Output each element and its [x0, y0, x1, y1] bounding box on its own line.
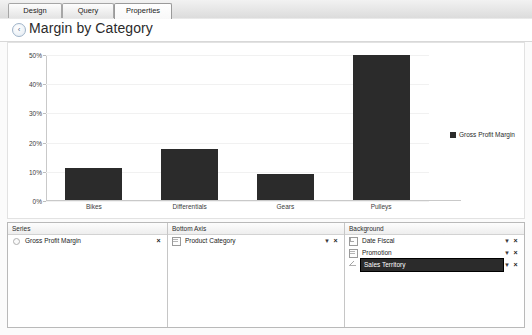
field-row-label: Gross Profit Margin: [24, 235, 154, 247]
panel-background-rows: Date Fiscal▼×Promotion▼×Sales Territory▼…: [345, 235, 524, 271]
field-row-label: Date Fiscal: [361, 235, 503, 247]
chevron-down-icon[interactable]: ▼: [323, 235, 331, 247]
y-tick-mark: [43, 201, 46, 202]
chart-header: ‹ Margin by Category: [0, 19, 532, 42]
panel-background-header: Background: [345, 223, 524, 235]
back-arrow-icon[interactable]: ‹: [12, 23, 26, 37]
measure-icon: [12, 237, 20, 245]
chevron-down-icon[interactable]: ▼: [503, 259, 511, 271]
bar[interactable]: [257, 174, 314, 200]
panel-bottom-axis-header: Bottom Axis: [168, 223, 344, 235]
tab-strip: Design Query Properties: [0, 0, 532, 20]
bar[interactable]: [353, 55, 410, 200]
remove-field-icon[interactable]: ×: [511, 247, 520, 259]
bar[interactable]: [65, 168, 122, 200]
tab-design[interactable]: Design: [8, 3, 62, 18]
field-row-label: Sales Territory: [361, 259, 503, 271]
remove-field-icon[interactable]: ×: [154, 235, 163, 247]
bar-cell: [142, 55, 238, 200]
x-axis-label: Bikes: [46, 203, 142, 210]
bar[interactable]: [161, 149, 218, 200]
plot-area: 50%40%30%20%10%0%: [46, 55, 429, 201]
bar-group: [46, 55, 429, 200]
bar-cell: [333, 55, 429, 200]
field-row[interactable]: Promotion▼×: [345, 247, 524, 259]
field-row[interactable]: Date Fiscal▼×: [345, 235, 524, 247]
chevron-down-icon[interactable]: ▼: [503, 247, 511, 259]
field-row-label: Product Category: [184, 235, 323, 247]
tab-properties[interactable]: Properties: [114, 3, 172, 19]
remove-field-icon[interactable]: ×: [511, 235, 520, 247]
y-tick-label: 10%: [29, 169, 42, 176]
field-row[interactable]: Sales Territory▼×: [345, 259, 524, 271]
table-icon: [349, 249, 357, 257]
panel-background: Background Date Fiscal▼×Promotion▼×Sales…: [345, 223, 524, 327]
panel-series: Series Gross Profit Margin×: [8, 223, 168, 327]
field-row[interactable]: Gross Profit Margin×: [8, 235, 167, 247]
y-tick-label: 40%: [29, 81, 42, 88]
y-tick-label: 30%: [29, 110, 42, 117]
panel-series-header: Series: [8, 223, 167, 235]
chart-canvas: 50%40%30%20%10%0% BikesDifferentialsGear…: [7, 42, 525, 219]
legend-swatch-icon: [450, 132, 456, 138]
bar-cell: [238, 55, 334, 200]
field-panels: Series Gross Profit Margin× Bottom Axis …: [7, 222, 525, 328]
gridline: [46, 201, 429, 202]
tab-query[interactable]: Query: [62, 3, 114, 18]
table-icon: [172, 237, 180, 245]
y-tick-label: 50%: [29, 52, 42, 59]
chart-legend: Gross Profit Margin: [450, 131, 515, 138]
x-axis-label: Differentials: [142, 203, 238, 210]
hierarchy-icon: [349, 237, 357, 245]
x-axis-labels: BikesDifferentialsGearsPulleys: [46, 203, 429, 210]
x-axis-label: Gears: [238, 203, 334, 210]
chevron-down-icon[interactable]: ▼: [503, 235, 511, 247]
legend-label: Gross Profit Margin: [459, 131, 515, 138]
x-axis-label: Pulleys: [333, 203, 429, 210]
field-row[interactable]: Product Category▼×: [168, 235, 344, 247]
remove-field-icon[interactable]: ×: [511, 259, 520, 271]
field-row-label: Promotion: [361, 247, 503, 259]
page-title: Margin by Category: [29, 20, 153, 36]
bar-cell: [46, 55, 142, 200]
geography-icon: [349, 261, 357, 269]
properties-pane: Design Query Properties ‹ Margin by Cate…: [0, 0, 532, 335]
panel-bottom-axis: Bottom Axis Product Category▼×: [168, 223, 345, 327]
remove-field-icon[interactable]: ×: [331, 235, 340, 247]
panel-bottom-axis-rows: Product Category▼×: [168, 235, 344, 247]
y-tick-label: 0%: [33, 198, 42, 205]
panel-series-rows: Gross Profit Margin×: [8, 235, 167, 247]
y-tick-label: 20%: [29, 140, 42, 147]
